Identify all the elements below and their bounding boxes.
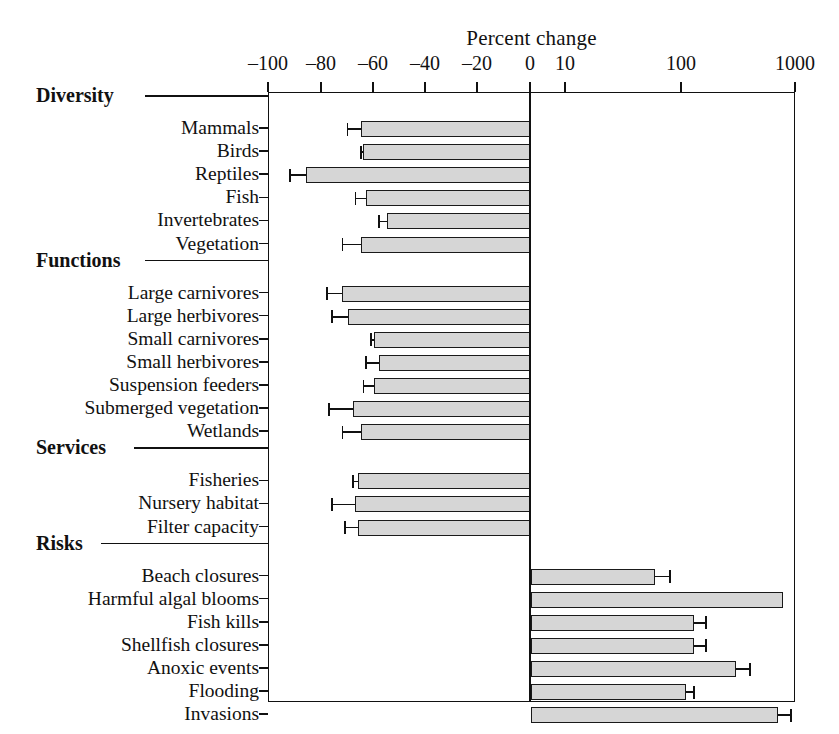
error-bar-cap <box>355 192 357 205</box>
category-label-row: Submerged vegetation <box>0 398 259 418</box>
category-label: Large carnivores <box>128 283 259 303</box>
zero-baseline <box>529 92 531 702</box>
category-label: Mammals <box>181 118 259 138</box>
category-label-row: Birds <box>0 141 259 161</box>
chart-title: Percent change <box>268 26 795 51</box>
error-bar-line <box>655 576 669 578</box>
x-tick-label-7: 100 <box>666 52 696 75</box>
category-label: Reptiles <box>195 164 259 184</box>
error-bar-cap <box>705 639 707 652</box>
bar <box>387 213 531 229</box>
category-label: Vegetation <box>176 234 259 254</box>
category-label: Beach closures <box>142 566 260 586</box>
category-tick <box>259 503 268 505</box>
category-label: Nursery habitat <box>138 493 259 513</box>
category-tick <box>259 575 268 577</box>
category-label: Invertebrates <box>157 210 259 230</box>
bar <box>531 661 736 677</box>
plot-frame <box>268 92 795 702</box>
category-tick <box>259 315 268 317</box>
category-tick <box>259 384 268 386</box>
x-tick-mark-8 <box>794 82 796 92</box>
category-label-row: Mammals <box>0 118 259 138</box>
group-rule-diversity <box>145 95 268 97</box>
group-rule-functions <box>145 260 268 262</box>
category-label: Suspension feeders <box>109 375 259 395</box>
category-label-row: Reptiles <box>0 164 259 184</box>
category-label-row: Invasions <box>0 704 259 724</box>
x-tick-mark-1 <box>320 82 322 92</box>
category-label-row: Suspension feeders <box>0 375 259 395</box>
category-label: Shellfish closures <box>121 635 259 655</box>
category-label: Wetlands <box>187 421 259 441</box>
group-rule-risks <box>101 543 268 545</box>
category-tick <box>259 220 268 222</box>
error-bar-cap <box>360 146 362 159</box>
x-tick-mark-0 <box>267 82 269 92</box>
error-bar-line <box>332 316 348 318</box>
bar <box>358 520 531 536</box>
error-bar-line <box>379 221 387 223</box>
category-label-row: Flooding <box>0 681 259 701</box>
category-label: Invasions <box>184 704 259 724</box>
error-bar-line <box>342 431 360 433</box>
category-label-row: Anoxic events <box>0 658 259 678</box>
category-tick <box>259 407 268 409</box>
bar <box>348 309 531 325</box>
x-tick-mark-5 <box>529 82 531 92</box>
category-label: Small herbivores <box>126 352 259 372</box>
group-label-services: Services <box>36 437 106 457</box>
bar <box>363 144 531 160</box>
error-bar-line <box>332 504 356 506</box>
error-bar-cap <box>378 215 380 228</box>
bar <box>531 638 694 654</box>
category-label-row: Beach closures <box>0 566 259 586</box>
percent-change-bar-chart: Percent change –100–80–60–40–20010100100… <box>0 0 839 734</box>
x-tick-label-3: –40 <box>410 52 440 75</box>
category-tick <box>259 173 268 175</box>
bar <box>306 167 531 183</box>
category-tick <box>259 480 268 482</box>
error-bar-cap <box>347 123 349 136</box>
x-tick-label-5: 0 <box>525 52 535 75</box>
error-bar-cap <box>328 403 330 416</box>
error-bar-cap <box>342 426 344 439</box>
error-bar-cap <box>326 287 328 300</box>
category-label: Filter capacity <box>147 517 259 537</box>
category-tick <box>259 526 268 528</box>
error-bar-line <box>778 714 791 716</box>
category-label-row: Nursery habitat <box>0 493 259 513</box>
category-tick <box>259 598 268 600</box>
error-bar-cap <box>365 356 367 369</box>
category-label-row: Small carnivores <box>0 329 259 349</box>
error-bar-cap <box>693 686 695 699</box>
category-label-row: Harmful algal blooms <box>0 589 259 609</box>
x-tick-label-8: 1000 <box>775 52 815 75</box>
x-tick-mark-4 <box>476 82 478 92</box>
bar <box>358 473 531 489</box>
category-tick <box>259 292 268 294</box>
bar <box>355 496 531 512</box>
error-bar-cap <box>289 169 291 182</box>
bar <box>374 332 531 348</box>
error-bar-cap <box>669 570 671 583</box>
category-label-row: Small herbivores <box>0 352 259 372</box>
error-bar-line <box>345 527 358 529</box>
category-tick <box>259 690 268 692</box>
error-bar-line <box>366 362 379 364</box>
category-label-row: Shellfish closures <box>0 635 259 655</box>
bar <box>342 286 531 302</box>
error-bar-line <box>342 244 360 246</box>
error-bar-cap <box>790 709 792 722</box>
category-label-row: Fisheries <box>0 470 259 490</box>
error-bar-cap <box>363 380 365 393</box>
x-tick-mark-2 <box>372 82 374 92</box>
error-bar-cap <box>331 498 333 511</box>
category-tick <box>259 197 268 199</box>
category-label-row: Fish <box>0 187 259 207</box>
bar <box>361 424 531 440</box>
x-tick-label-1: –80 <box>306 52 336 75</box>
x-tick-label-4: –20 <box>462 52 492 75</box>
x-tick-mark-7 <box>680 82 682 92</box>
category-label: Fish <box>225 187 259 207</box>
